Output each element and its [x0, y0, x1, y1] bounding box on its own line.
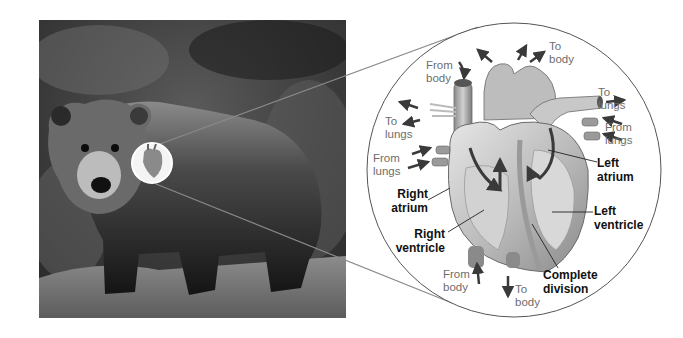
label-complete-division: Complete division — [543, 268, 598, 296]
label-from-lungs-right: From lungs — [605, 121, 633, 147]
label-right-ventricle: Right ventricle — [385, 227, 445, 255]
label-to-lungs-left: To lungs — [385, 115, 413, 141]
label-right-atrium: Right atrium — [390, 187, 428, 215]
label-from-body-bottom: From body — [443, 268, 470, 294]
label-to-lungs-right: To lungs — [598, 86, 626, 112]
label-to-body-bottom: To body — [515, 283, 540, 309]
label-from-body-top: From body — [426, 59, 453, 85]
figure: From body To body To lungs From lungs To… — [0, 0, 683, 338]
label-to-body-top: To body — [549, 40, 574, 66]
label-left-atrium: Left atrium — [597, 156, 634, 184]
label-left-ventricle: Left ventricle — [594, 204, 643, 232]
small-heart-circle — [132, 143, 172, 183]
label-from-lungs-left: From lungs — [373, 152, 401, 178]
